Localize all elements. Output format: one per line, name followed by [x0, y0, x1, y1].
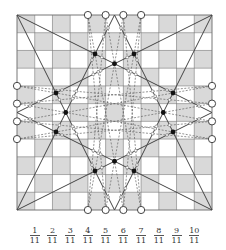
- boundary-circle-left: [13, 118, 20, 125]
- board-cell: [194, 50, 212, 68]
- board-cell: [35, 192, 53, 210]
- hollow-intersection-point: [92, 149, 95, 152]
- hollow-intersection-point: [124, 187, 127, 190]
- board-cell: [177, 139, 195, 157]
- hollow-intersection-point: [102, 187, 105, 190]
- board-cell: [52, 15, 70, 33]
- filled-dot: [112, 61, 117, 66]
- board-cell: [106, 86, 124, 104]
- hollow-intersection-point: [189, 122, 192, 125]
- boundary-circle-left: [13, 82, 20, 89]
- boundary-circle-left: [13, 135, 20, 142]
- board-cell: [88, 104, 106, 122]
- board-cell: [35, 33, 53, 51]
- hollow-intersection-point: [151, 90, 154, 93]
- board-cell: [70, 104, 88, 122]
- board-cell: [141, 50, 159, 68]
- numerator: 8: [154, 226, 164, 236]
- filled-dot: [112, 159, 117, 164]
- hollow-intersection-point: [91, 59, 94, 62]
- numerator: 3: [65, 226, 75, 236]
- hollow-intersection-point: [120, 196, 123, 199]
- hollow-intersection-point: [71, 125, 74, 128]
- board-cell: [35, 68, 53, 86]
- filled-dot: [132, 52, 137, 57]
- hollow-intersection-point: [168, 124, 171, 127]
- boundary-circle-right: [208, 100, 215, 107]
- filled-dot: [171, 130, 176, 135]
- board-cell: [52, 50, 70, 68]
- hollow-intersection-point: [100, 56, 103, 59]
- boundary-circle-top: [137, 11, 144, 18]
- hollow-intersection-point: [58, 124, 61, 127]
- board-cell: [70, 33, 88, 51]
- hollow-intersection-point: [75, 132, 78, 135]
- filled-dot: [54, 91, 59, 96]
- hollow-intersection-point: [166, 134, 169, 137]
- hollow-intersection-point: [120, 27, 123, 30]
- board-cell: [88, 68, 106, 86]
- hollow-intersection-point: [134, 73, 137, 76]
- numerator: 6: [118, 226, 128, 236]
- numerator: 7: [136, 226, 146, 236]
- numerator: 9: [172, 226, 182, 236]
- board-cell: [88, 121, 106, 139]
- hollow-intersection-point: [102, 35, 105, 38]
- board-cell: [70, 121, 88, 139]
- boundary-circle-right: [208, 82, 215, 89]
- board-cell: [35, 104, 53, 122]
- hollow-intersection-point: [37, 100, 40, 103]
- board-cell: [141, 104, 159, 122]
- hollow-intersection-point: [134, 149, 137, 152]
- boundary-circle-bottom: [137, 206, 144, 213]
- hollow-intersection-point: [99, 153, 102, 156]
- hollow-intersection-point: [37, 122, 40, 125]
- denominator: 11: [184, 236, 204, 245]
- hollow-intersection-point: [198, 105, 201, 108]
- hollow-intersection-point: [99, 69, 102, 72]
- board-cell: [35, 139, 53, 157]
- grid-diagram: [0, 0, 226, 250]
- hollow-intersection-point: [61, 134, 64, 137]
- board-cell: [177, 157, 195, 175]
- boundary-circle-bottom: [120, 206, 127, 213]
- board-cell: [123, 86, 141, 104]
- hollow-intersection-point: [29, 118, 32, 121]
- board-cell: [106, 33, 124, 51]
- board-cell: [141, 175, 159, 193]
- board-cell: [17, 192, 35, 210]
- hollow-intersection-point: [168, 98, 171, 101]
- board-cell: [52, 175, 70, 193]
- board-cell: [106, 175, 124, 193]
- hollow-intersection-point: [155, 97, 158, 100]
- board-cell: [177, 15, 195, 33]
- hollow-intersection-point: [126, 56, 129, 59]
- fraction-label: 1011: [184, 226, 204, 245]
- numerator: 4: [83, 226, 93, 236]
- board-cell: [141, 68, 159, 86]
- board-cell: [123, 139, 141, 157]
- board-cell: [123, 68, 141, 86]
- numerator: 2: [47, 226, 57, 236]
- board-cell: [17, 175, 35, 193]
- boundary-circle-right: [208, 135, 215, 142]
- board-cell: [35, 15, 53, 33]
- board-cell: [159, 68, 177, 86]
- board-cell: [194, 33, 212, 51]
- numerator: 1: [30, 226, 40, 236]
- hollow-intersection-point: [155, 125, 158, 128]
- checkerboard-cells: [17, 15, 212, 210]
- board-cell: [17, 33, 35, 51]
- board-cell: [106, 139, 124, 157]
- board-cell: [52, 157, 70, 175]
- boundary-circle-top: [102, 11, 109, 18]
- boundary-circle-top: [120, 11, 127, 18]
- hollow-intersection-point: [29, 105, 32, 108]
- board-cell: [52, 192, 70, 210]
- hollow-intersection-point: [58, 98, 61, 101]
- board-cell: [177, 33, 195, 51]
- hollow-intersection-point: [166, 89, 169, 92]
- board-cell: [159, 15, 177, 33]
- filled-dot: [54, 130, 59, 135]
- board-cell: [177, 192, 195, 210]
